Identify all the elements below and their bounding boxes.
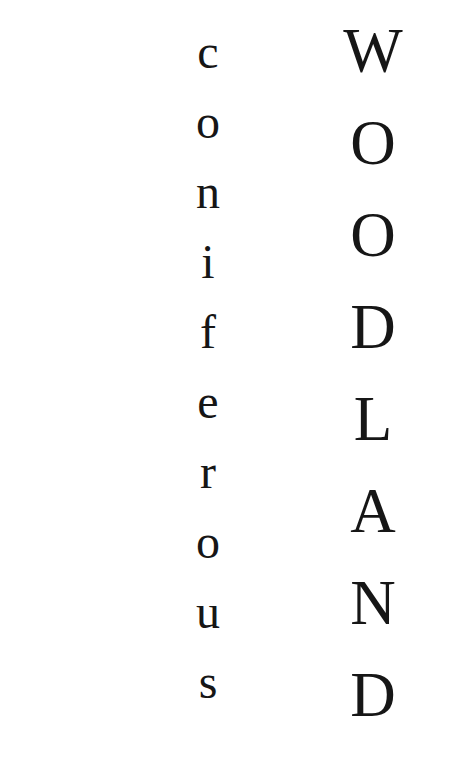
- letter-glyph: L: [165, 388, 470, 480]
- letter-glyph: W: [165, 20, 470, 112]
- letter-glyph: D: [165, 664, 470, 756]
- letter-glyph: D: [165, 296, 470, 388]
- letter-glyph: A: [165, 480, 470, 572]
- letter-glyph: O: [165, 204, 470, 296]
- letter-glyph: O: [165, 112, 470, 204]
- vertical-word-woodland: W O O D L A N D: [165, 20, 470, 756]
- page-canvas: c o n i f e r o u s W O O D L A N D: [0, 0, 470, 784]
- letter-glyph: N: [165, 572, 470, 664]
